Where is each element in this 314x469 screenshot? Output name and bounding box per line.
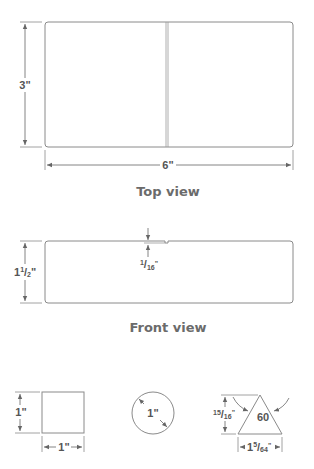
dimension-arrow [139, 399, 144, 404]
front-view-caption: Front view [129, 320, 206, 335]
top-view-caption: Top view [136, 184, 200, 199]
square-profile: 1" 1" [15, 392, 84, 453]
front-view: 1/16" 11/2" Front view [14, 228, 293, 335]
angle-arrow [233, 397, 248, 411]
top-view-height-label: 3" [19, 79, 30, 91]
square-outline [42, 392, 84, 433]
triangle-height-label: 15/16" [213, 408, 235, 420]
square-height-label: 1" [15, 406, 26, 418]
top-view-width-label: 6" [162, 159, 173, 171]
triangle-base-label: 15/64" [247, 441, 271, 453]
angle-arrow [274, 398, 289, 411]
circle-diameter-label: 1" [147, 407, 158, 419]
front-view-height-label: 11/2" [14, 266, 36, 278]
top-view-outline [45, 22, 293, 147]
technical-drawing: 3" 6" Top view 1/16" 11/2" Front view [0, 0, 314, 469]
square-width-label: 1" [58, 441, 69, 453]
triangle-profile: 60 15/16" 15/64" [213, 395, 289, 453]
top-view: 3" 6" Top view [19, 22, 293, 199]
dimension-arrow [160, 420, 167, 427]
front-view-outline [45, 241, 293, 303]
circle-profile: 1" [132, 392, 174, 434]
triangle-angle-label: 60 [257, 411, 269, 423]
notch-depth-label: 1/16" [140, 258, 158, 271]
